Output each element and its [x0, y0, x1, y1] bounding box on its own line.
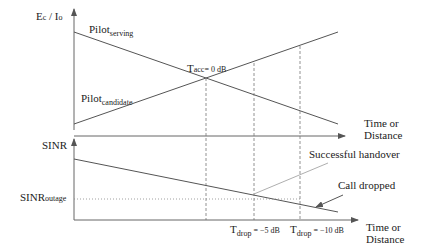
top-plot: Ec / Io Pilotserving Pilotcandidate Tacc…	[36, 9, 403, 141]
tdrop-5-label: Tdrop = −5 dB	[230, 223, 280, 238]
sinr-outage-label: SINRoutage	[20, 191, 67, 203]
call-dropped-label: Call dropped	[338, 179, 396, 191]
pilot-serving-label: Pilotserving	[89, 23, 133, 38]
bottom-x-axis-label-line2: Distance	[366, 233, 405, 245]
top-y-axis-label: Ec / Io	[36, 10, 63, 22]
bottom-plot: SINR SINRoutage Successful handover Call…	[20, 139, 405, 245]
top-x-axis-label-line2: Distance	[364, 129, 403, 141]
successful-handover-label: Successful handover	[309, 148, 400, 160]
tdrop-10-label: Tdrop = −10 dB	[290, 223, 344, 238]
top-x-axis-label-line1: Time or	[364, 117, 399, 129]
pilot-candidate-label: Pilotcandidate	[81, 92, 133, 107]
successful-handover-pointer	[254, 163, 328, 194]
sinr-axis-label: SINR	[42, 139, 68, 151]
tacc-label: Tacc= 0 dB	[187, 62, 226, 74]
bottom-x-axis-label-line1: Time or	[366, 221, 401, 233]
call-dropped-arrow	[316, 195, 343, 207]
handover-diagram: Ec / Io Pilotserving Pilotcandidate Tacc…	[0, 0, 423, 251]
